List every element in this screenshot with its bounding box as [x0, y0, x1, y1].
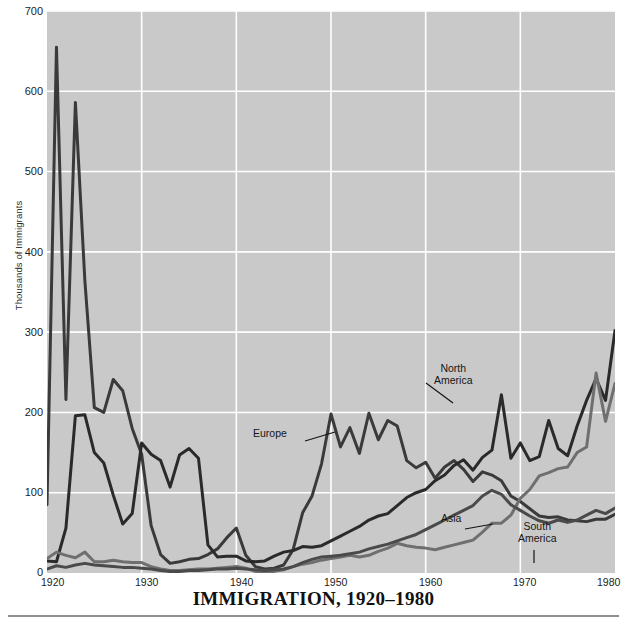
x-tick-1980: 1980 — [597, 577, 620, 588]
x-tick-1940: 1940 — [230, 577, 253, 588]
x-tick-1960: 1960 — [419, 577, 442, 588]
x-axis-tick-labels: 1920 1930 1940 1950 1960 1970 1980 — [0, 0, 627, 624]
x-tick-1970: 1970 — [513, 577, 536, 588]
chart-title: IMMIGRATION, 1920–1980 — [0, 588, 627, 610]
immigration-line-chart: Thousands of Immigrants 700 600 500 400 … — [0, 0, 627, 624]
x-tick-1920: 1920 — [41, 577, 64, 588]
bottom-rule — [8, 615, 619, 617]
x-tick-1950: 1950 — [324, 577, 347, 588]
x-tick-1930: 1930 — [135, 577, 158, 588]
